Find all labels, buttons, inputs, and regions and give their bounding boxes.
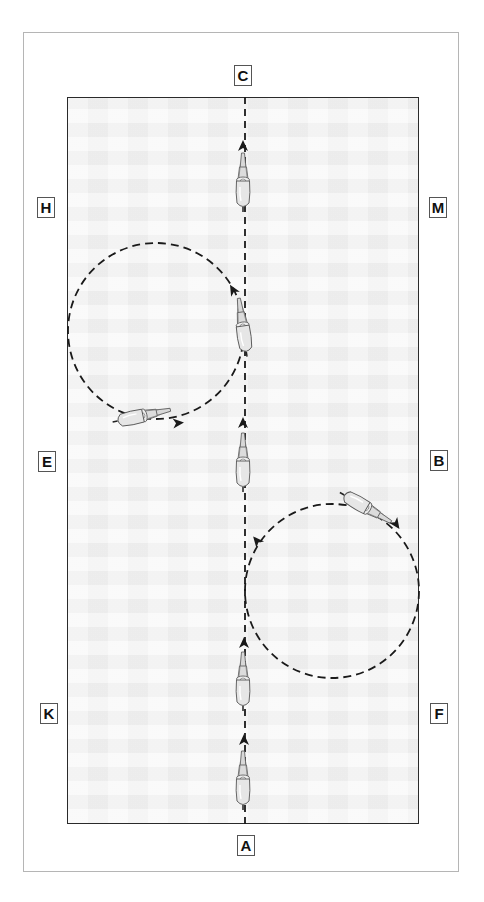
horse-icon (336, 487, 394, 528)
direction-arrow-icon (238, 140, 248, 151)
horse-icon (236, 652, 250, 711)
direction-arrows (173, 140, 404, 745)
horse-icon (236, 153, 250, 212)
direction-arrow-icon (173, 417, 185, 428)
horse-icon (232, 297, 254, 357)
direction-arrow-icon (249, 533, 264, 548)
direction-arrow-icon (238, 417, 248, 428)
horse-icon (236, 751, 250, 810)
direction-arrow-icon (389, 517, 404, 532)
left-circle (68, 243, 244, 419)
horse-icon (111, 403, 172, 429)
riding-paths (0, 0, 484, 902)
direction-arrow-icon (239, 637, 249, 648)
right-circle (245, 504, 419, 678)
direction-arrow-icon (239, 734, 249, 745)
horse-icon (236, 433, 250, 492)
horses (111, 153, 394, 810)
direction-arrow-icon (226, 282, 240, 297)
